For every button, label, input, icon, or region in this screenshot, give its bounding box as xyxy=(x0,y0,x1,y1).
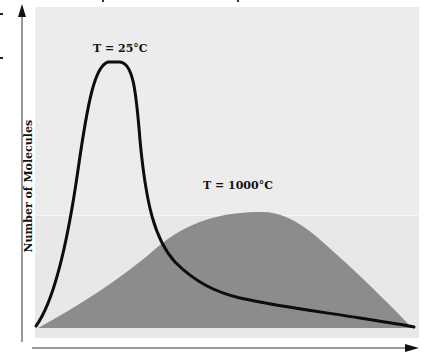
curve-label-25c: T = 25°C xyxy=(93,42,148,55)
chart-figure: Number of Molecules T = 25°C T = 1000°C xyxy=(0,0,425,353)
y-axis-label: Number of Molecules xyxy=(22,153,35,253)
area-t1000 xyxy=(38,212,412,328)
y-axis-arrow-icon xyxy=(18,4,26,17)
x-axis-arrow-icon xyxy=(405,344,419,352)
plot-area xyxy=(0,0,425,353)
curve-label-1000c: T = 1000°C xyxy=(203,179,273,192)
